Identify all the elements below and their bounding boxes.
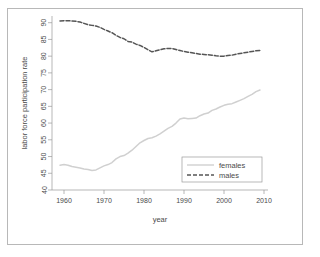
screenshot-page: 4045505560657075808590 19601970198019902… [0,0,320,257]
x-axis-ticks: 196019701980199020002010 [56,190,272,204]
legend-label-males: males [219,171,239,180]
y-tick-label-80: 80 [41,52,48,60]
chart-legend[interactable]: females males [182,157,262,182]
y-tick-label-75: 75 [41,69,48,77]
y-tick-label-65: 65 [41,102,48,110]
y-tick-label-40: 40 [41,186,48,194]
data-series-group [60,21,260,171]
y-tick-label-60: 60 [41,119,48,127]
y-axis-title: labor force participation rate [20,57,29,150]
y-tick-label-45: 45 [41,169,48,177]
x-axis-title: year [153,215,168,224]
x-tick-label-1970: 1970 [96,197,112,204]
y-axis-ticks: 4045505560657075808590 [41,19,53,194]
legend-label-females: females [219,161,246,170]
x-tick-label-1990: 1990 [176,197,192,204]
y-tick-label-50: 50 [41,153,48,161]
x-tick-label-1960: 1960 [56,197,72,204]
line-chart: 4045505560657075808590 19601970198019902… [0,0,320,257]
x-tick-label-2010: 2010 [256,197,272,204]
y-tick-label-55: 55 [41,136,48,144]
x-tick-label-2000: 2000 [216,197,232,204]
series-line-males [60,21,260,56]
y-tick-label-85: 85 [41,35,48,43]
y-tick-label-70: 70 [41,86,48,94]
y-tick-label-90: 90 [41,19,48,27]
x-tick-label-1980: 1980 [136,197,152,204]
